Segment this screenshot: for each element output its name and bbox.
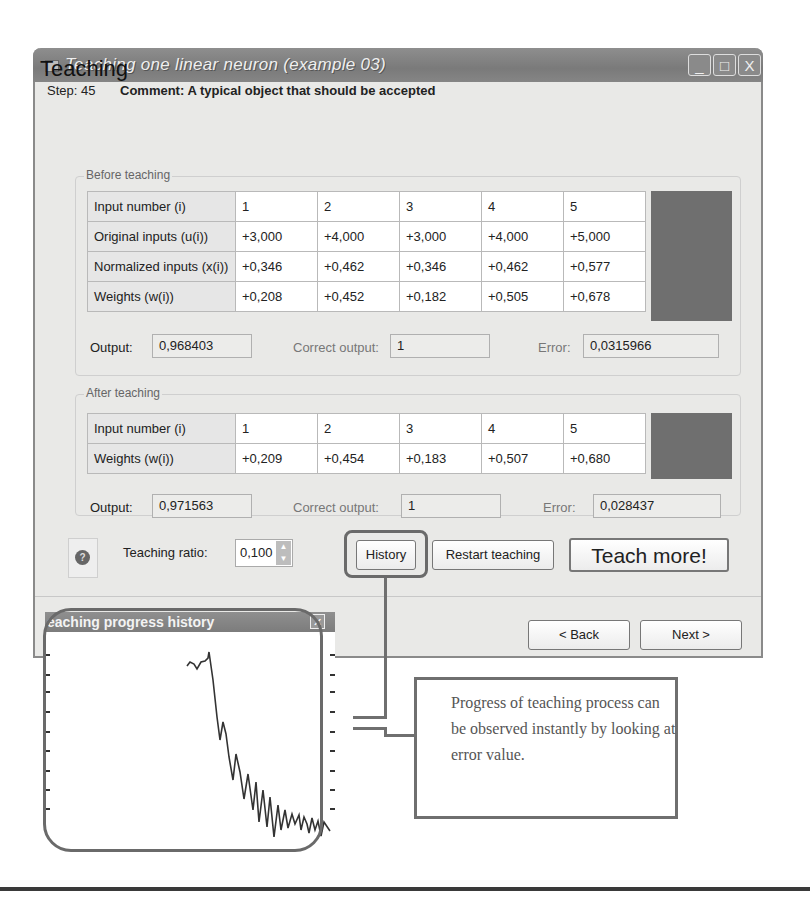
- table-row: Weights (w(i)) +0,209 +0,454 +0,183 +0,5…: [88, 444, 646, 474]
- cell[interactable]: +5,000: [564, 222, 646, 252]
- maximize-button[interactable]: □: [713, 54, 736, 76]
- correct-output-label: Correct output:: [293, 500, 379, 515]
- correct-output-field[interactable]: 1: [390, 334, 490, 358]
- row-header: Original inputs (u(i)): [88, 222, 236, 252]
- y-axis-ticks-right: [330, 655, 335, 809]
- teaching-ratio-value: 0,100: [240, 545, 273, 560]
- cell[interactable]: 1: [236, 414, 318, 444]
- cell[interactable]: 1: [236, 192, 318, 222]
- cell[interactable]: +0,462: [318, 252, 400, 282]
- teaching-ratio-stepper[interactable]: 0,100 ▲ ▼: [235, 539, 293, 567]
- correct-output-label: Correct output:: [293, 340, 379, 355]
- cell[interactable]: +0,209: [236, 444, 318, 474]
- cell[interactable]: +0,182: [400, 282, 482, 312]
- connector-line: [384, 578, 387, 718]
- error-label: Error:: [538, 340, 571, 355]
- cell[interactable]: 4: [482, 192, 564, 222]
- cell[interactable]: +0,577: [564, 252, 646, 282]
- before-teaching-table: Input number (i) 1 2 3 4 5 Original inpu…: [87, 191, 646, 312]
- minimize-button[interactable]: _: [688, 54, 711, 76]
- output-field[interactable]: 0,968403: [152, 334, 252, 358]
- cell[interactable]: +0,505: [482, 282, 564, 312]
- error-field[interactable]: 0,028437: [593, 494, 721, 518]
- cell[interactable]: +0,208: [236, 282, 318, 312]
- history-highlight-annotation: [344, 530, 428, 578]
- connector-line: [353, 727, 387, 730]
- cell[interactable]: +4,000: [482, 222, 564, 252]
- cell[interactable]: +0,454: [318, 444, 400, 474]
- page-title: Teaching: [40, 56, 128, 82]
- cell[interactable]: +3,000: [400, 222, 482, 252]
- output-field[interactable]: 0,971563: [152, 494, 252, 518]
- cell[interactable]: 2: [318, 414, 400, 444]
- row-header: Weights (w(i)): [88, 444, 236, 474]
- cell[interactable]: 2: [318, 192, 400, 222]
- table-row: Original inputs (u(i)) +3,000 +4,000 +3,…: [88, 222, 646, 252]
- correct-output-field[interactable]: 1: [401, 494, 501, 518]
- table-scroll-area: [651, 191, 732, 321]
- next-button[interactable]: Next >: [640, 620, 742, 650]
- stepper-arrows[interactable]: ▲ ▼: [276, 541, 291, 565]
- cell[interactable]: 5: [564, 192, 646, 222]
- row-header: Input number (i): [88, 192, 236, 222]
- back-button[interactable]: < Back: [528, 620, 630, 650]
- error-field[interactable]: 0,0315966: [583, 334, 719, 358]
- callout-box: Progress of teaching process can be obse…: [414, 677, 678, 819]
- table-row: Weights (w(i)) +0,208 +0,452 +0,182 +0,5…: [88, 282, 646, 312]
- stepper-down-icon[interactable]: ▼: [276, 553, 291, 565]
- output-label: Output:: [90, 500, 133, 515]
- history-popup-highlight-annotation: [43, 608, 323, 852]
- cell[interactable]: +4,000: [318, 222, 400, 252]
- divider: [35, 596, 761, 597]
- table-row: Input number (i) 1 2 3 4 5: [88, 192, 646, 222]
- cell[interactable]: 5: [564, 414, 646, 444]
- close-button[interactable]: X: [738, 54, 761, 76]
- title-bar[interactable]: Teaching one linear neuron (example 03) …: [33, 48, 763, 82]
- cell[interactable]: 4: [482, 414, 564, 444]
- cell[interactable]: +0,183: [400, 444, 482, 474]
- table-row: Normalized inputs (x(i)) +0,346 +0,462 +…: [88, 252, 646, 282]
- cell[interactable]: +3,000: [236, 222, 318, 252]
- cell[interactable]: +0,680: [564, 444, 646, 474]
- step-counter: Step: 45: [47, 83, 95, 98]
- connector-line: [353, 716, 387, 719]
- cell[interactable]: +0,346: [236, 252, 318, 282]
- cell[interactable]: +0,507: [482, 444, 564, 474]
- row-header: Normalized inputs (x(i)): [88, 252, 236, 282]
- row-header: Weights (w(i)): [88, 282, 236, 312]
- after-teaching-legend: After teaching: [84, 386, 162, 400]
- callout-text: Progress of teaching process can be obse…: [451, 690, 676, 768]
- before-teaching-legend: Before teaching: [84, 168, 172, 182]
- help-icon: ?: [75, 550, 90, 565]
- help-button[interactable]: ?: [68, 538, 98, 578]
- teaching-ratio-label: Teaching ratio:: [123, 545, 208, 560]
- cell[interactable]: 3: [400, 192, 482, 222]
- comment-text: Comment: A typical object that should be…: [120, 83, 435, 98]
- after-teaching-table: Input number (i) 1 2 3 4 5 Weights (w(i)…: [87, 413, 646, 474]
- teach-more-button[interactable]: Teach more!: [569, 538, 729, 572]
- table-row: Input number (i) 1 2 3 4 5: [88, 414, 646, 444]
- restart-teaching-button[interactable]: Restart teaching: [432, 540, 554, 570]
- row-header: Input number (i): [88, 414, 236, 444]
- cell[interactable]: +0,462: [482, 252, 564, 282]
- cell[interactable]: +0,452: [318, 282, 400, 312]
- stepper-up-icon[interactable]: ▲: [276, 541, 291, 553]
- cell[interactable]: 3: [400, 414, 482, 444]
- cell[interactable]: +0,346: [400, 252, 482, 282]
- connector-line: [384, 734, 416, 737]
- error-label: Error:: [543, 500, 576, 515]
- output-label: Output:: [90, 340, 133, 355]
- page-rule: [0, 887, 810, 891]
- table-scroll-area: [651, 413, 732, 479]
- cell[interactable]: +0,678: [564, 282, 646, 312]
